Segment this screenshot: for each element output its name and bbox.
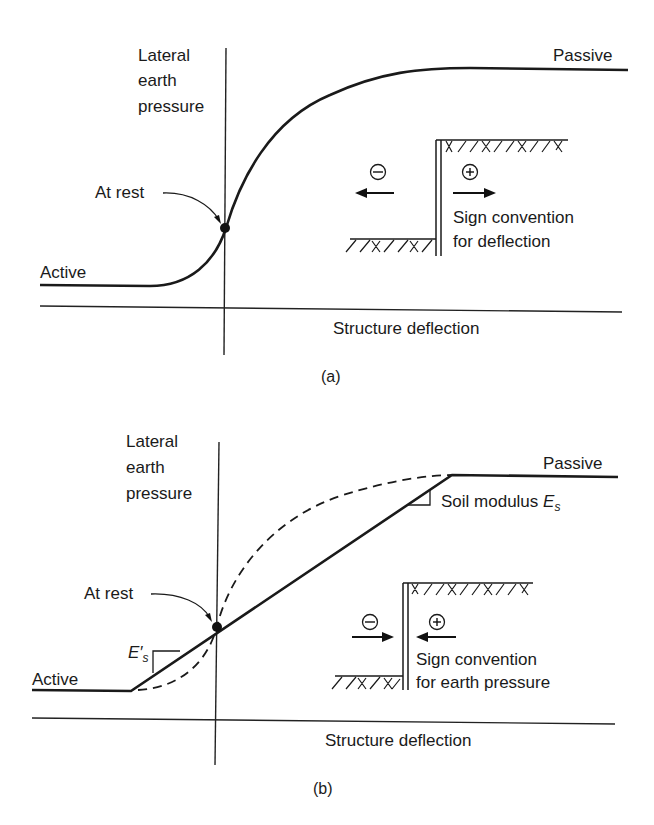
panel-b-x-axis-label: Structure deflection (325, 731, 471, 750)
panel-b-y-axis-label: Lateral earth pressure (126, 432, 192, 503)
panel-a-at-rest-arrowhead (214, 215, 221, 224)
panel-a-at-rest-label: At rest (95, 183, 144, 202)
panel-b-caption: (b) (313, 780, 333, 797)
panel-b-at-rest-label: At rest (84, 584, 133, 603)
panel-a-active-label: Active (40, 263, 86, 282)
panel-a-soil-hatch-top (446, 141, 562, 152)
panel-a-x-axis-label: Structure deflection (333, 319, 479, 338)
panel-a-x-axis (40, 306, 622, 312)
panel-b-secant-modulus-label: E′s (128, 643, 149, 665)
panel-a-passive-label: Passive (553, 46, 613, 65)
panel-b-active-label: Active (32, 670, 78, 689)
panel-a: Lateral earth pressure At rest Active Pa… (40, 46, 628, 385)
panel-a-y-axis-label: Lateral earth pressure (138, 46, 204, 116)
panel-b-at-rest-point (212, 622, 222, 632)
panel-b-passive-label: Passive (543, 454, 603, 473)
panel-a-y-axis (224, 48, 226, 355)
panel-a-sign-convention-inset: Sign convention for deflection (346, 140, 579, 256)
panel-b-at-rest-arrowhead (205, 613, 212, 622)
panel-a-at-rest-leader (163, 193, 219, 220)
panel-a-at-rest-point (220, 223, 230, 233)
panel-b-x-axis (32, 718, 615, 724)
panel-a-soil-hatch-bottom (346, 240, 432, 252)
earth-pressure-figure: Lateral earth pressure At rest Active Pa… (0, 0, 654, 825)
panel-b: Lateral earth pressure At rest Active Pa… (32, 432, 618, 797)
panel-b-y-axis (215, 442, 219, 765)
panel-b-soil-modulus-label: Soil modulus Es (441, 492, 560, 514)
panel-a-pressure-curve (40, 68, 628, 286)
panel-b-sign-convention-text: Sign convention for earth pressure (416, 650, 550, 692)
panel-b-soil-hatch-top (412, 584, 528, 595)
panel-b-soil-hatch-bottom (332, 677, 400, 689)
panel-b-sign-convention-inset: Sign convention for earth pressure (332, 583, 550, 692)
panel-b-at-rest-leader (151, 594, 210, 618)
panel-a-caption: (a) (321, 368, 341, 385)
panel-a-sign-convention-text: Sign convention for deflection (453, 208, 579, 251)
